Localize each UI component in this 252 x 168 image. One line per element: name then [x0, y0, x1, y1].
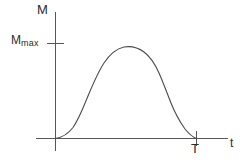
data-curve-m-of-t [56, 47, 197, 139]
y-tick-label-mmax-main: M [11, 33, 21, 47]
y-axis-label: M [37, 3, 48, 16]
y-tick-label-mmax-subscript: max [21, 38, 39, 48]
plot-canvas [0, 0, 252, 168]
plot-figure: M Mmax T t [0, 0, 252, 168]
x-axis-label: t [230, 137, 233, 149]
y-tick-label-mmax: Mmax [11, 34, 39, 46]
x-tick-label-t: T [191, 142, 199, 155]
